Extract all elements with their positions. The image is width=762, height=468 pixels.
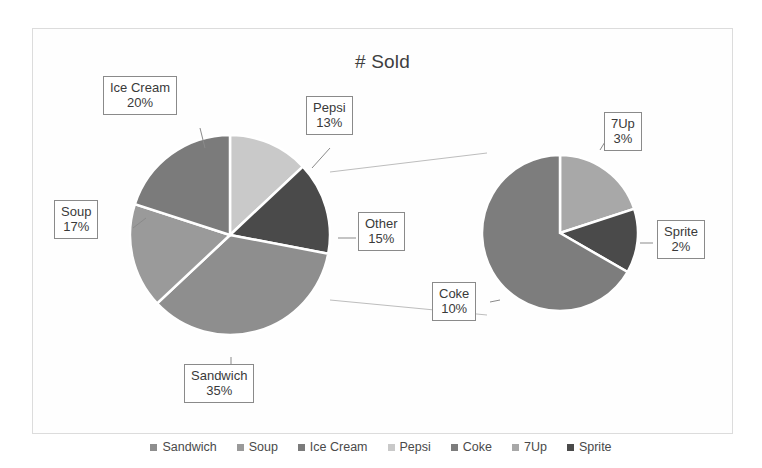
legend-swatch-icon (512, 444, 519, 451)
legend-item-label: Coke (463, 440, 492, 454)
legend-item-label: Soup (249, 440, 278, 454)
callout-other-value: 15% (365, 231, 398, 246)
callout-7up-value: 3% (611, 131, 635, 146)
legend-swatch-icon (298, 444, 305, 451)
callout-sandwich-label: Sandwich (191, 368, 247, 383)
callout-soup-label: Soup (61, 204, 91, 219)
legend-swatch-icon (237, 444, 244, 451)
callout-soup-value: 17% (61, 219, 91, 234)
chart-title: # Sold (33, 51, 732, 73)
callout-sprite-value: 2% (664, 239, 698, 254)
callout-ice-cream-value: 20% (110, 95, 170, 110)
callout-pepsi[interactable]: Pepsi 13% (306, 96, 353, 135)
legend-swatch-icon (451, 444, 458, 451)
callout-coke-value: 10% (439, 301, 469, 316)
callout-sprite[interactable]: Sprite 2% (657, 220, 705, 259)
callout-7up[interactable]: 7Up 3% (604, 112, 642, 151)
legend-item-label: Ice Cream (310, 440, 368, 454)
legend-swatch-icon (388, 444, 395, 451)
callout-pepsi-label: Pepsi (313, 100, 346, 115)
callout-ice-cream-label: Ice Cream (110, 80, 170, 95)
callout-coke-label: Coke (439, 286, 469, 301)
legend-swatch-icon (150, 444, 157, 451)
legend-item-sandwich[interactable]: Sandwich (150, 440, 216, 454)
legend-item-soup[interactable]: Soup (237, 440, 278, 454)
legend-swatch-icon (567, 444, 574, 451)
legend-item-coke[interactable]: Coke (451, 440, 492, 454)
legend-item-label: Sprite (579, 440, 612, 454)
callout-other[interactable]: Other 15% (358, 212, 405, 251)
callout-sandwich[interactable]: Sandwich 35% (184, 364, 254, 403)
callout-coke[interactable]: Coke 10% (432, 282, 476, 321)
callout-sprite-label: Sprite (664, 224, 698, 239)
callout-sandwich-value: 35% (191, 383, 247, 398)
callout-pepsi-value: 13% (313, 115, 346, 130)
legend-item-sprite[interactable]: Sprite (567, 440, 612, 454)
legend-item-label: Sandwich (162, 440, 216, 454)
legend-item-ice-cream[interactable]: Ice Cream (298, 440, 368, 454)
legend-item-7up[interactable]: 7Up (512, 440, 547, 454)
chart-legend: SandwichSoupIce CreamPepsiCoke7UpSprite (0, 440, 762, 454)
callout-soup[interactable]: Soup 17% (54, 200, 98, 239)
legend-item-pepsi[interactable]: Pepsi (388, 440, 431, 454)
legend-item-label: Pepsi (400, 440, 431, 454)
callout-ice-cream[interactable]: Ice Cream 20% (103, 76, 177, 115)
callout-other-label: Other (365, 216, 398, 231)
callout-7up-label: 7Up (611, 116, 635, 131)
legend-item-label: 7Up (524, 440, 547, 454)
